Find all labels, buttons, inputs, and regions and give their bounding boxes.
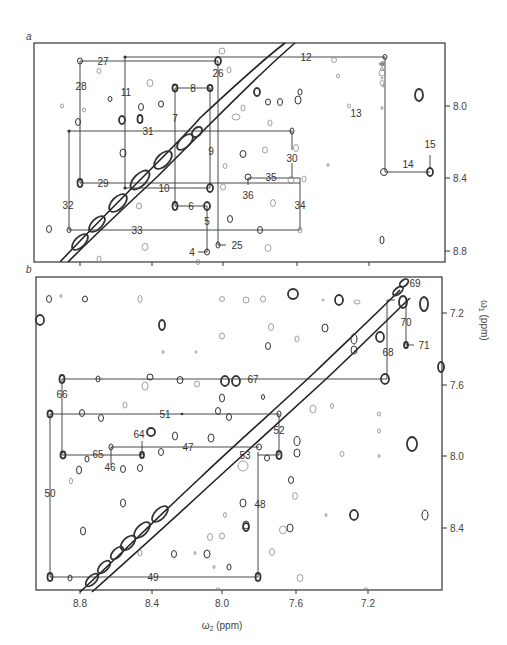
x-tick-label: 7.2 [361,598,375,609]
assignment-label: 50 [44,488,56,499]
assignment-label: 12 [300,52,312,63]
y-tick-label: 8.0 [450,451,464,462]
assignment-label: 28 [75,81,87,92]
assignment-label: 64 [133,429,145,440]
assignment-label: 7 [172,113,178,124]
assignment-label: 9 [208,146,214,157]
assignment-label: 65 [92,449,104,460]
assignment-label: 11 [121,87,132,98]
assignment-label: 29 [97,178,109,189]
panel-a-letter: a [26,31,32,42]
assignment-label: 36 [242,190,254,201]
assignment-label: 13 [350,108,362,119]
assignment-label: 30 [286,153,298,164]
panel-b-crosspeaks [36,289,444,590]
assignment-label: 31 [142,126,154,137]
assignment-label: 51 [159,409,171,420]
assignment-label: 70 [400,317,412,328]
assignment-label: 66 [56,389,68,400]
y-axis-label: ω1 (ppm) [478,300,490,341]
y-tick-label: 7.2 [450,308,464,319]
assignment-label: 47 [182,442,194,453]
panel-a: a 8.0 8.4 8.8 [26,31,467,266]
assignment-label: 10 [158,183,170,194]
assignment-label: 48 [254,499,266,510]
assignment-label: 26 [212,68,224,79]
panel-a-y-axis: 8.0 8.4 8.8 [445,101,467,257]
y-tick-label: 8.8 [453,246,467,257]
panel-b: b 7.2 7.6 8.0 8.4 ω1 (ppm) 8.8 8.4 8.0 7… [26,264,490,632]
assignment-label: 8 [190,83,196,94]
panel-a-x-ticks [80,262,369,266]
assignment-label: 52 [273,425,285,436]
assignment-label: 53 [239,450,251,461]
y-tick-label: 8.4 [453,173,467,184]
assignment-label: 5 [204,216,210,227]
assignment-label: 49 [147,572,159,583]
assignment-label: 68 [382,347,394,358]
x-axis-label: ω2 (ppm) [202,620,243,632]
y-tick-label: 8.4 [450,523,464,534]
panel-b-frame [36,277,442,590]
assignment-label: 15 [424,139,436,150]
x-tick-label: 7.6 [289,598,303,609]
assignment-label: 71 [418,340,430,351]
y-tick-label: 7.6 [450,380,464,391]
x-tick-label: 8.4 [145,598,159,609]
panel-b-letter: b [26,264,32,275]
assignment-label: 4 [189,247,195,258]
x-tick-label: 8.0 [215,598,229,609]
panel-b-x-axis: 8.8 8.4 8.0 7.6 7.2 ω2 (ppm) [73,590,375,632]
panel-b-y-axis: 7.2 7.6 8.0 8.4 ω1 (ppm) [442,300,490,534]
panel-b-connectivity [50,297,414,577]
assignment-label: 32 [62,200,74,211]
assignment-label: 69 [409,278,421,289]
panel-b-labels: 69 70 71 68 67 66 51 52 64 47 65 53 46 5… [44,278,430,583]
assignment-label: 46 [104,462,116,473]
assignment-label: 35 [265,172,277,183]
assignment-label: 34 [294,200,306,211]
assignment-label: 6 [188,201,194,212]
panel-b-diagonal [80,277,410,592]
assignment-label: 14 [402,159,414,170]
y-tick-label: 8.0 [453,101,467,112]
nmr-figure: a 8.0 8.4 8.8 [0,0,507,645]
panel-a-diagonal [60,43,295,262]
x-tick-label: 8.8 [73,598,87,609]
assignment-label: 25 [231,240,243,251]
assignment-label: 33 [131,225,143,236]
assignment-label: 27 [97,56,109,67]
assignment-label: 67 [247,374,259,385]
